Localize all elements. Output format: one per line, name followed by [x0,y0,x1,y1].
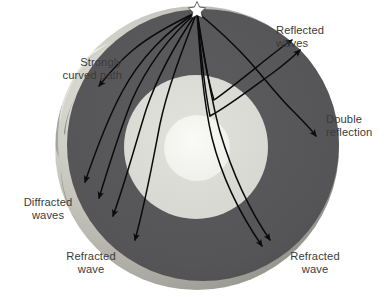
label-refracted-wave-left: Refracted wave [48,250,134,275]
label-diffracted-waves: Diffracted waves [6,196,90,221]
label-double-reflection: Double reflection [326,113,388,138]
label-refracted-wave-right: Refracted wave [272,250,358,275]
label-strongly-curved-path: Strongly curved path [18,56,122,81]
seismic-wave-diagram: Strongly curved path Reflected waves Dou… [0,0,391,297]
label-reflected-waves: Reflected waves [276,24,376,49]
earth-inner-core [164,115,230,181]
